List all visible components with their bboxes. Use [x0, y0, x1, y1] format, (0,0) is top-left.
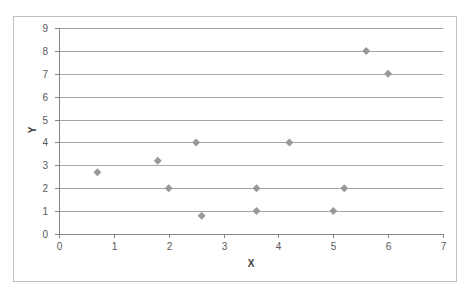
y-tick-label: 1 [42, 206, 48, 217]
x-tick-label: 2 [167, 241, 173, 252]
x-tick-label: 6 [386, 241, 392, 252]
y-tick-label: 5 [42, 115, 48, 126]
x-tick-label: 0 [57, 241, 63, 252]
y-axis-title: Y [27, 126, 38, 133]
y-tick-label: 7 [42, 69, 48, 80]
y-tick-label: 8 [42, 46, 48, 57]
x-axis-title: X [248, 258, 255, 269]
x-tick-label: 7 [441, 241, 447, 252]
x-tick-label: 5 [331, 241, 337, 252]
x-tick-label: 3 [222, 241, 228, 252]
x-tick-label: 1 [112, 241, 118, 252]
scatter-chart: 0123456789 01234567 X Y [0, 0, 472, 300]
y-tick-label: 3 [42, 160, 48, 171]
y-tick-label: 9 [42, 23, 48, 34]
y-tick-label: 0 [42, 229, 48, 240]
x-tick-label: 4 [276, 241, 282, 252]
y-tick-label: 6 [42, 92, 48, 103]
y-tick-label: 2 [42, 183, 48, 194]
y-tick-label: 4 [42, 137, 48, 148]
